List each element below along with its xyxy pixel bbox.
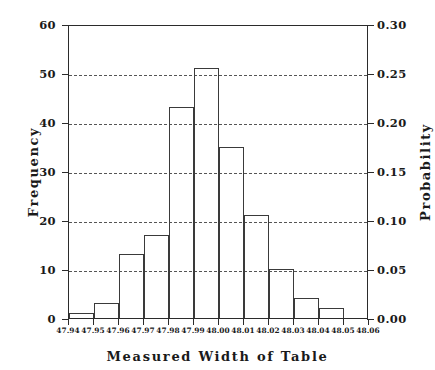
x-axis-tick xyxy=(293,319,294,325)
x-axis-tick-label: 47.99 xyxy=(181,326,205,335)
y-axis-right-tick xyxy=(367,172,374,173)
y-axis-left-tick-label: 40 xyxy=(39,116,56,130)
x-axis-tick xyxy=(343,319,344,325)
y-axis-right-tick xyxy=(367,25,374,26)
x-axis-tick xyxy=(218,319,219,325)
x-axis-tick-label: 48.06 xyxy=(356,326,380,335)
y-axis-right-tick-label: 0.15 xyxy=(377,165,407,179)
y-axis-right-tick-label: 0.30 xyxy=(377,18,407,32)
y-axis-right-tick-label: 0.10 xyxy=(377,214,407,228)
x-axis-tick-label: 47.94 xyxy=(56,326,80,335)
x-axis-tick xyxy=(118,319,119,325)
y-axis-right-tick xyxy=(367,270,374,271)
x-axis-tick-label: 48.01 xyxy=(231,326,255,335)
x-axis-tick xyxy=(193,319,194,325)
x-axis-tick xyxy=(243,319,244,325)
plot-area xyxy=(68,25,368,319)
y-axis-left-tick xyxy=(62,221,69,222)
y-axis-right-tick xyxy=(367,74,374,75)
x-axis-tick xyxy=(143,319,144,325)
x-axis-tick-label: 48.03 xyxy=(281,326,305,335)
x-axis-tick xyxy=(268,319,269,325)
histogram-chart: 0102030405060 0.000.050.100.150.200.250.… xyxy=(0,0,435,370)
y-axis-right-tick xyxy=(367,123,374,124)
y-axis-right-tick-label: 0.20 xyxy=(377,116,407,130)
x-axis-tick-label: 47.98 xyxy=(156,326,180,335)
x-axis-tick-label: 48.00 xyxy=(206,326,230,335)
histogram-bar xyxy=(169,107,194,318)
x-axis-tick xyxy=(318,319,319,325)
y-axis-left-tick-label: 50 xyxy=(39,67,56,81)
y-axis-left-tick xyxy=(62,123,69,124)
y-axis-left-tick xyxy=(62,172,69,173)
histogram-bar xyxy=(294,298,319,318)
y-axis-right-tick xyxy=(367,221,374,222)
histogram-bar xyxy=(69,313,94,318)
y-axis-right-tick-label: 0.05 xyxy=(377,263,407,277)
histogram-bar xyxy=(244,215,269,318)
x-axis-tick xyxy=(168,319,169,325)
histogram-bar xyxy=(319,308,344,318)
x-axis-title: Measured Width of Table xyxy=(0,349,435,364)
x-axis-tick-label: 47.96 xyxy=(106,326,130,335)
x-axis-tick xyxy=(368,319,369,325)
y-axis-right-tick-label: 0.25 xyxy=(377,67,407,81)
x-axis-tick-label: 48.02 xyxy=(256,326,280,335)
x-axis-tick-label: 48.04 xyxy=(306,326,330,335)
y-axis-left-tick xyxy=(62,74,69,75)
histogram-bar xyxy=(94,303,119,318)
histogram-bar xyxy=(269,269,294,318)
histogram-bar xyxy=(194,68,219,318)
y-axis-left-tick-label: 20 xyxy=(39,214,56,228)
y-axis-title-right: Probability xyxy=(418,92,433,252)
x-axis-tick xyxy=(68,319,69,325)
y-axis-title-left: Frequency xyxy=(26,92,41,252)
y-axis-left-tick xyxy=(62,270,69,271)
histogram-bar xyxy=(119,254,144,318)
y-axis-left-tick-label: 60 xyxy=(39,18,56,32)
y-axis-right-tick-label: 0.00 xyxy=(377,312,407,326)
x-axis-tick-label: 47.95 xyxy=(81,326,105,335)
y-axis-left-tick-label: 0 xyxy=(48,312,56,326)
x-axis-tick xyxy=(93,319,94,325)
y-axis-left-tick-label: 30 xyxy=(39,165,56,179)
y-axis-left-tick-label: 10 xyxy=(39,263,56,277)
histogram-bar xyxy=(219,147,244,319)
x-axis-tick-label: 47.97 xyxy=(131,326,155,335)
x-axis-tick-label: 48.05 xyxy=(331,326,355,335)
histogram-bars xyxy=(69,26,367,318)
y-axis-left-tick xyxy=(62,25,69,26)
histogram-bar xyxy=(144,235,169,318)
